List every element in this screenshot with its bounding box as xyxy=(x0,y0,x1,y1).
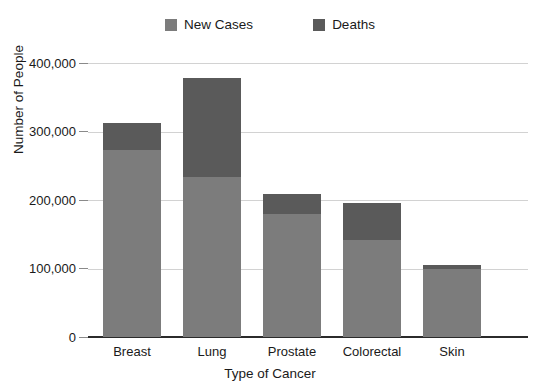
bar-group-skin[interactable] xyxy=(423,265,481,337)
bar-segment-new-cases-lung[interactable] xyxy=(183,177,241,337)
bar-group-breast[interactable] xyxy=(103,123,161,337)
plot-area xyxy=(88,63,528,337)
y-tick-mark-300000 xyxy=(79,131,88,132)
bar-segment-deaths-lung[interactable] xyxy=(183,78,241,177)
chart-legend: New Cases Deaths xyxy=(0,14,540,36)
bar-segment-deaths-colorectal[interactable] xyxy=(343,203,401,240)
y-tick-mark-0 xyxy=(79,337,88,338)
legend-label-new-cases: New Cases xyxy=(184,18,253,32)
bar-group-colorectal[interactable] xyxy=(343,203,401,337)
bar-segment-new-cases-colorectal[interactable] xyxy=(343,240,401,337)
y-tick-label-0: 0 xyxy=(0,330,76,345)
bar-chart: New Cases Deaths Number of People 400,00… xyxy=(0,0,540,392)
bar-group-lung[interactable] xyxy=(183,78,241,337)
bar-segment-new-cases-skin[interactable] xyxy=(423,269,481,337)
bar-segment-new-cases-prostate[interactable] xyxy=(263,214,321,337)
legend-item-new-cases[interactable]: New Cases xyxy=(165,18,253,32)
x-axis-title: Type of Cancer xyxy=(0,366,540,381)
bar-segment-new-cases-breast[interactable] xyxy=(103,150,161,337)
y-tick-mark-100000 xyxy=(79,268,88,269)
bar-segment-deaths-breast[interactable] xyxy=(103,123,161,150)
bar-group-prostate[interactable] xyxy=(263,194,321,337)
y-axis-title: Number of People xyxy=(11,0,26,200)
legend-item-deaths[interactable]: Deaths xyxy=(313,18,375,32)
legend-label-deaths: Deaths xyxy=(332,18,375,32)
x-tick-label-skin: Skin xyxy=(397,344,507,359)
legend-swatch-icon-new-cases xyxy=(165,19,177,31)
bar-segment-deaths-prostate[interactable] xyxy=(263,194,321,214)
legend-swatch-icon-deaths xyxy=(313,19,325,31)
y-tick-mark-200000 xyxy=(79,200,88,201)
bar-series-container xyxy=(88,63,528,337)
y-tick-label-100000: 100,000 xyxy=(0,261,76,276)
y-tick-mark-400000 xyxy=(79,63,88,64)
